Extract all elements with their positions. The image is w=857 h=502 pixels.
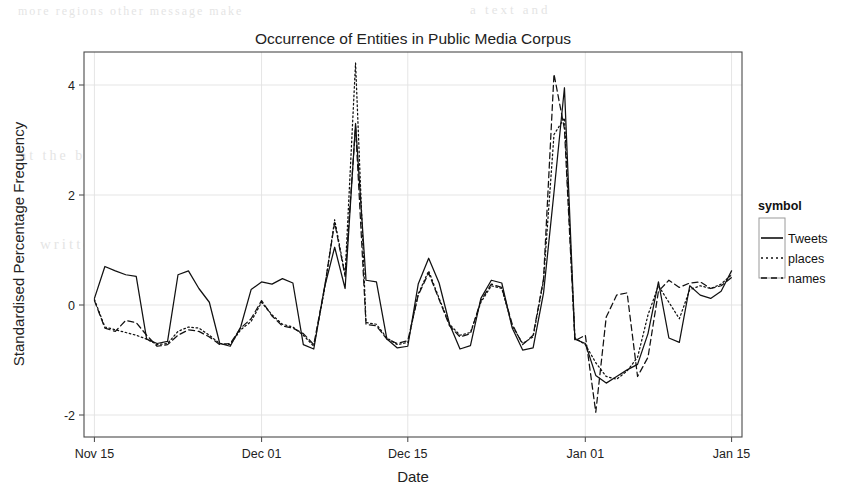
chart-title: Occurrence of Entities in Public Media C… xyxy=(255,30,571,47)
plot-background xyxy=(84,52,742,437)
y-tick-label: 4 xyxy=(68,79,75,93)
x-tick-label: Nov 15 xyxy=(75,447,115,461)
y-tick-label: -2 xyxy=(64,409,75,423)
x-tick-label: Dec 15 xyxy=(388,447,428,461)
legend[interactable]: symbol Tweets places names xyxy=(758,199,828,286)
legend-label-places[interactable]: places xyxy=(788,252,824,266)
chart-canvas: -2024 Nov 15Dec 01Dec 15Jan 01Jan 15 Occ… xyxy=(0,0,857,502)
chart-page: more regions other message make a text a… xyxy=(0,0,857,502)
y-axis: -2024 xyxy=(64,79,84,423)
legend-label-tweets[interactable]: Tweets xyxy=(788,232,828,246)
x-axis-title: Date xyxy=(397,468,429,485)
y-axis-title: Standardised Percentage Frequency xyxy=(10,121,27,366)
x-tick-label: Jan 01 xyxy=(567,447,605,461)
y-tick-label: 2 xyxy=(68,189,75,203)
legend-key-box xyxy=(759,218,785,278)
x-tick-label: Jan 15 xyxy=(713,447,751,461)
legend-title: symbol xyxy=(758,199,802,213)
x-tick-label: Dec 01 xyxy=(242,447,282,461)
y-tick-label: 0 xyxy=(68,299,75,313)
legend-label-names[interactable]: names xyxy=(788,272,826,286)
x-axis: Nov 15Dec 01Dec 15Jan 01Jan 15 xyxy=(75,437,751,461)
